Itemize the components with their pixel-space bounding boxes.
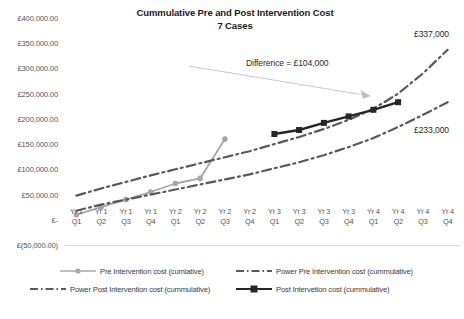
data-point-marker <box>222 136 228 142</box>
y-axis-labels: £400,000.00£350,000.00£300,000.00£250,00… <box>0 0 62 245</box>
series-line <box>76 102 447 211</box>
legend-key-pre-intervention <box>60 266 96 276</box>
y-axis-tick: £100,000.00 <box>17 165 58 174</box>
series-line <box>76 50 447 196</box>
x-axis-tick: Yr 2Q3 <box>212 207 238 227</box>
x-axis-tick-line: Yr 2 <box>187 207 213 217</box>
chart-container: Cummulative Pre and Post Intervention Co… <box>0 0 464 319</box>
x-axis-tick-line: Yr 3 <box>286 207 312 217</box>
x-axis-tick: Yr 1Q1 <box>63 207 89 227</box>
y-axis-tick: £50,000.00 <box>21 190 58 199</box>
x-axis-tick: Yr 1Q4 <box>138 207 164 227</box>
x-axis-tick: Yr 2Q2 <box>187 207 213 227</box>
series-1 <box>76 50 447 196</box>
x-axis-tick-line: Yr 2 <box>162 207 188 217</box>
y-axis-tick: £200,000.00 <box>17 114 58 123</box>
x-axis-tick: Yr 1Q2 <box>88 207 114 227</box>
data-point-marker <box>296 127 302 133</box>
x-axis-tick-line: Q3 <box>113 217 139 227</box>
legend-label-power-pre-intervention: Power Pre Intervention cost (cummulative… <box>276 267 413 276</box>
chart-legend: Pre Intervention cost (cumlative) Power … <box>0 262 464 314</box>
legend-label-pre-intervention: Pre Intervention cost (cumlative) <box>100 267 204 276</box>
y-axis-tick: £250,000.00 <box>17 89 58 98</box>
legend-item-power-post-intervention[interactable]: Power Post Intervention cost (cummulativ… <box>30 284 210 294</box>
difference-leader <box>189 66 370 99</box>
x-axis-tick-line: Yr 1 <box>113 207 139 217</box>
x-axis-tick-line: Yr 2 <box>237 207 263 217</box>
data-point-marker <box>271 131 277 137</box>
series-line <box>274 102 398 134</box>
x-axis-tick-line: Yr 4 <box>385 207 411 217</box>
series-line <box>76 139 225 215</box>
legend-item-pre-intervention[interactable]: Pre Intervention cost (cumlative) <box>60 266 204 276</box>
series-2 <box>76 102 447 211</box>
legend-label-post-intervention: Post Intervetion cost (cummulative) <box>276 285 389 294</box>
x-axis-tick: Yr 3Q4 <box>336 207 362 227</box>
annotation-pre-end-value: £337,000 <box>414 29 449 39</box>
x-axis-tick-line: Q1 <box>63 217 89 227</box>
x-axis-labels: Yr 1Q1Yr 1Q2Yr 1Q3Yr 1Q4Yr 2Q1Yr 2Q2Yr 2… <box>64 207 460 247</box>
legend-label-power-post-intervention: Power Post Intervention cost (cummulativ… <box>70 285 210 294</box>
x-axis-tick-line: Q1 <box>261 217 287 227</box>
annotation-post-end-value: £233,000 <box>414 125 449 135</box>
x-axis-tick-line: Yr 2 <box>212 207 238 217</box>
annotation-difference: Difference = £104,000 <box>246 58 329 68</box>
x-axis-tick: Yr 1Q3 <box>113 207 139 227</box>
x-axis-tick-line: Q3 <box>410 217 436 227</box>
x-axis-tick-line: Q4 <box>237 217 263 227</box>
data-point-marker <box>370 107 376 113</box>
x-axis-tick: Yr 3Q1 <box>261 207 287 227</box>
y-axis-tick: £400,000.00 <box>17 14 58 23</box>
y-axis-tick: £350,000.00 <box>17 39 58 48</box>
data-point-marker <box>346 113 352 119</box>
x-axis-tick: Yr 4Q1 <box>360 207 386 227</box>
x-axis-tick-line: Yr 4 <box>435 207 461 217</box>
x-axis-tick-line: Q2 <box>187 217 213 227</box>
legend-key-post-intervention <box>236 284 272 294</box>
y-axis-tick: £(50,000.00) <box>17 241 58 250</box>
x-axis-tick-line: Q1 <box>162 217 188 227</box>
legend-key-power-pre-intervention <box>236 266 272 276</box>
x-axis-tick-line: Yr 1 <box>138 207 164 217</box>
x-axis-tick: Yr 2Q1 <box>162 207 188 227</box>
x-axis-tick: Yr 4Q2 <box>385 207 411 227</box>
x-axis-tick-line: Yr 3 <box>311 207 337 217</box>
x-axis-tick: Yr 3Q3 <box>311 207 337 227</box>
x-axis-tick-line: Q3 <box>311 217 337 227</box>
x-axis-tick-line: Yr 4 <box>360 207 386 217</box>
x-axis-tick-line: Yr 3 <box>261 207 287 217</box>
y-axis-tick: £300,000.00 <box>17 64 58 73</box>
x-axis-tick: Yr 4Q4 <box>435 207 461 227</box>
x-axis-tick-line: Yr 1 <box>88 207 114 217</box>
x-axis-tick-line: Q2 <box>88 217 114 227</box>
data-point-marker <box>321 120 327 126</box>
x-axis-tick-line: Q2 <box>385 217 411 227</box>
legend-item-power-pre-intervention[interactable]: Power Pre Intervention cost (cummulative… <box>236 266 413 276</box>
x-axis-tick-line: Q1 <box>360 217 386 227</box>
y-axis-tick: £150,000.00 <box>17 140 58 149</box>
legend-item-post-intervention[interactable]: Post Intervetion cost (cummulative) <box>236 284 389 294</box>
data-point-marker <box>197 176 203 182</box>
x-axis-tick: Yr 3Q2 <box>286 207 312 227</box>
x-axis-tick-line: Q4 <box>336 217 362 227</box>
legend-key-power-post-intervention <box>30 284 66 294</box>
x-axis-tick-line: Q4 <box>138 217 164 227</box>
y-axis-tick: £- <box>52 215 58 224</box>
data-point-marker <box>395 99 401 105</box>
x-axis-tick: Yr 2Q4 <box>237 207 263 227</box>
x-axis-tick-line: Q3 <box>212 217 238 227</box>
x-axis-tick: Yr 4Q3 <box>410 207 436 227</box>
x-axis-tick-line: Q2 <box>286 217 312 227</box>
x-axis-tick-line: Q4 <box>435 217 461 227</box>
x-axis-tick-line: Yr 4 <box>410 207 436 217</box>
x-axis-tick-line: Yr 1 <box>63 207 89 217</box>
x-axis-tick-line: Yr 3 <box>336 207 362 217</box>
data-point-marker <box>173 181 179 187</box>
